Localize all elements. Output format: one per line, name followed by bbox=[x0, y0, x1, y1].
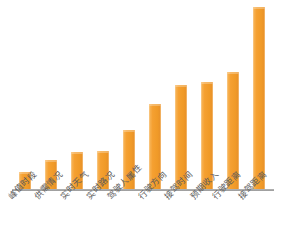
bar-chart: 峰值时段 供需情况 实时天气 实时路况 驾驶人属性 行驶方向 接驾时间 预期收入… bbox=[0, 0, 285, 247]
x-axis-tick-labels: 峰值时段 供需情况 实时天气 实时路况 驾驶人属性 行驶方向 接驾时间 预期收入… bbox=[0, 190, 285, 247]
bar-slot bbox=[12, 0, 38, 190]
